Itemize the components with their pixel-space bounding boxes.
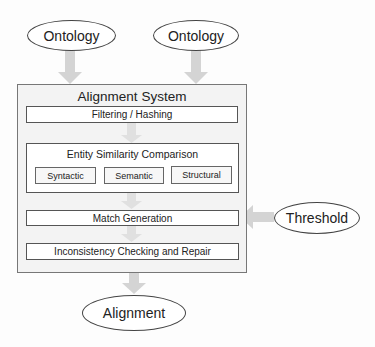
entity-similarity-title: Entity Similarity Comparison (27, 148, 238, 160)
stage-entity-similarity: Entity Similarity Comparison Syntactic S… (26, 143, 239, 193)
repair-label: Inconsistency Checking and Repair (54, 246, 211, 257)
ontology-right-label: Ontology (168, 28, 224, 44)
arrow-system-to-alignment (122, 272, 146, 294)
syntactic-label: Syntactic (47, 171, 84, 181)
alignment-output-label: Alignment (103, 305, 165, 321)
method-semantic: Semantic (104, 167, 164, 184)
arrow-ontology-left-to-system (58, 50, 82, 84)
threshold-input: Threshold (274, 202, 360, 234)
stage-inconsistency-repair: Inconsistency Checking and Repair (26, 243, 239, 260)
ontology-left-label: Ontology (43, 28, 99, 44)
alignment-system-box: Alignment System Filtering / Hashing Ent… (17, 84, 247, 273)
semantic-label: Semantic (115, 171, 153, 181)
stage-match-generation: Match Generation (26, 210, 239, 226)
alignment-output: Alignment (82, 295, 186, 331)
structural-label: Structural (182, 170, 221, 180)
ontology-input-left: Ontology (27, 20, 116, 51)
arrow-ontology-right-to-system (184, 50, 208, 84)
ontology-input-right: Ontology (153, 20, 239, 51)
method-syntactic: Syntactic (35, 167, 96, 184)
method-structural: Structural (171, 166, 232, 184)
threshold-label: Threshold (286, 210, 348, 226)
match-generation-label: Match Generation (93, 213, 173, 224)
stage-filtering-hashing: Filtering / Hashing (26, 106, 238, 123)
filtering-label: Filtering / Hashing (92, 109, 173, 120)
